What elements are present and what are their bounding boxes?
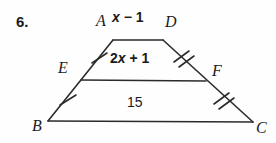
label-midsegment-operator: + xyxy=(129,50,137,66)
label-midsegment-variable: x xyxy=(118,50,126,66)
label-midsegment-constant: 1 xyxy=(142,50,150,66)
vertex-label-d: D xyxy=(165,14,177,30)
vertex-label-c: C xyxy=(256,120,267,136)
segment-bc xyxy=(48,121,253,122)
tick-mark-ae-single xyxy=(92,53,107,63)
vertex-label-a: A xyxy=(96,13,106,29)
label-top-side-constant: 1 xyxy=(136,9,144,25)
label-midsegment-expression: 2x + 1 xyxy=(110,51,149,65)
vertex-label-e: E xyxy=(58,60,68,76)
label-top-side-expression: x − 1 xyxy=(112,10,144,24)
segment-ef-midsegment xyxy=(81,80,206,81)
problem-number: 6. xyxy=(16,14,28,29)
label-top-side-operator: − xyxy=(124,9,132,25)
vertex-label-b: B xyxy=(32,118,42,134)
vertex-label-f: F xyxy=(212,63,222,79)
label-midsegment-coefficient: 2 xyxy=(110,50,118,66)
label-top-side-variable: x xyxy=(112,9,120,25)
geometry-figure-container: 6. A D E F B C x − 1 2x + 1 15 xyxy=(0,0,276,143)
label-bottom-side-value: 15 xyxy=(127,95,143,109)
